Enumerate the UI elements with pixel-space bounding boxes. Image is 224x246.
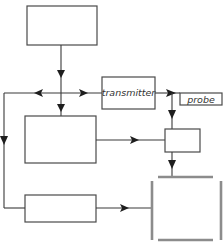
arrow-down-icon bbox=[0, 136, 8, 145]
arrow-down-icon bbox=[57, 70, 65, 78]
small-box bbox=[165, 129, 200, 152]
middle-box bbox=[25, 116, 96, 163]
probe-label: probe bbox=[186, 94, 215, 105]
arrow-down-icon bbox=[168, 110, 176, 119]
arrow-down-icon bbox=[57, 104, 65, 112]
top-box bbox=[27, 6, 97, 45]
block-diagram: transmitter probe bbox=[0, 0, 224, 246]
bottom-box bbox=[25, 195, 96, 222]
container bbox=[152, 177, 221, 240]
arrow-down-icon bbox=[168, 160, 176, 169]
transmitter-label: transmitter bbox=[102, 87, 157, 98]
